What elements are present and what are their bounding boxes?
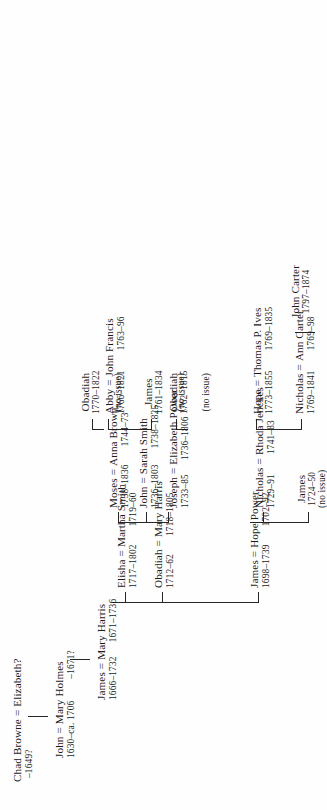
person-name: James: [248, 560, 260, 588]
node-john-carter-1797[interactable]: John Carter 1797–1874: [290, 265, 312, 318]
marriage-symbol: =: [108, 466, 120, 478]
person-dates: 1766–1821: [117, 370, 127, 414]
person-dates: 1630–ca. 1706: [67, 701, 77, 758]
rotated-chart-wrapper: Chad Browne=Elizabeth? –1649? John=Mary …: [0, 0, 327, 810]
person-name: Obadiah: [152, 549, 164, 588]
marriage-symbol: =: [96, 660, 108, 672]
tick-john2: [146, 512, 147, 523]
person-dates: 1733–85: [181, 474, 191, 508]
no-issue-note: (no issue): [318, 470, 327, 508]
person-dates: 1773–1855: [265, 370, 275, 414]
person-dates: 1762–1815: [180, 370, 190, 414]
person-name: Chad Browne: [11, 719, 23, 782]
spouse-name: Thomas P. Ives: [251, 308, 263, 377]
person-dates: 1698–1739: [262, 544, 272, 588]
no-issue-note: (no issue): [202, 370, 212, 414]
tick-james2: [258, 592, 259, 603]
tick-nicholas2: [301, 419, 302, 430]
person-name: Hope: [251, 389, 263, 414]
spouse-dates: 1763–96: [117, 316, 127, 350]
tick-obadiah3: [92, 419, 93, 430]
node-chad-browne[interactable]: Chad Browne=Elizabeth? –1649?: [8, 659, 35, 782]
person-name: John: [137, 486, 149, 508]
spouse-dates: 1671–1736: [109, 599, 119, 643]
person-dates: 1761–1834: [155, 370, 165, 414]
person-dates: –1649?: [25, 659, 35, 782]
node-abby-1766[interactable]: Abby=John Francis 1766–1821 1763–96: [100, 316, 127, 414]
person-dates: 1797–1874: [302, 265, 312, 318]
person-name: Obadiah: [168, 370, 180, 414]
person-name: John Carter: [290, 265, 302, 318]
spouse-dates: 1769–98: [307, 316, 317, 350]
person-name: Nicholas: [293, 373, 305, 414]
person-name: James: [95, 672, 107, 700]
marriage-symbol: =: [254, 455, 266, 467]
person-name: James: [296, 470, 308, 508]
connector-moses-drop: [92, 429, 104, 430]
node-john-1630[interactable]: John=Mary Holmes 1630–ca. 1706 –1671?: [50, 650, 77, 758]
spouse-name: Anna Brown: [107, 407, 119, 465]
person-dates: 1712–62: [166, 554, 176, 588]
spouse-name: Elizabeth?: [11, 659, 23, 707]
person-name: James: [143, 370, 155, 414]
spouse-name: Mary Harris: [95, 604, 107, 660]
person-name: Moses: [107, 478, 119, 508]
marriage-symbol: =: [249, 548, 261, 560]
spouse-dates: –1671?: [67, 650, 77, 679]
spouse-name: Sarah Smith: [137, 418, 149, 474]
person-name: Joseph: [167, 477, 179, 508]
node-nicholas-1769[interactable]: Nicholas=Ann Carter 1769–1841 1769–98: [290, 310, 317, 414]
marriage-symbol: =: [12, 707, 24, 719]
spouse-dates: 1741–83: [267, 420, 277, 454]
marriage-symbol: =: [104, 376, 116, 388]
person-name: Nicholas: [253, 467, 265, 508]
person-dates: 1738–1836: [121, 464, 131, 508]
spouse-name: John Francis: [103, 318, 115, 376]
spouse-name: Mary Holmes: [53, 661, 65, 724]
spouse-dates: 1769–1835: [265, 307, 275, 351]
marriage-symbol: =: [116, 547, 128, 559]
person-dates: 1729–91: [267, 474, 277, 508]
node-obadiah-1762[interactable]: Obadiah 1762–1815 (no issue): [168, 370, 211, 414]
spouse-dates: 1744–73: [121, 412, 131, 446]
sibling-bus-gen4-vert: [125, 602, 258, 603]
node-john-1736[interactable]: John=Sarah Smith 1736–1803 1738–1825: [134, 405, 161, 508]
person-dates: 1717–1802: [129, 544, 139, 588]
person-name: Abby: [103, 389, 115, 414]
person-name: John: [53, 736, 65, 758]
person-dates: 1736–1803: [151, 464, 161, 508]
node-moses-1738[interactable]: Moses=Anna Brown 1738–1836 1744–73: [104, 407, 131, 508]
tick-obadiah1: [162, 592, 163, 603]
node-hope-1773[interactable]: Hope=Thomas P. Ives 1773–1855 1769–1835: [248, 307, 275, 414]
marriage-symbol: =: [252, 377, 264, 389]
node-james-1724[interactable]: James 1724–50 (no issue): [296, 470, 327, 508]
person-dates: 1769–1841: [307, 370, 317, 414]
person-name: Obadiah: [80, 370, 92, 414]
marriage-symbol: =: [153, 537, 165, 549]
marriage-symbol: =: [294, 361, 306, 373]
person-dates: 1666–1732: [109, 656, 119, 700]
tick-elisha: [125, 592, 126, 603]
marriage-symbol: =: [54, 724, 66, 736]
spouse-dates: 1736–1806: [181, 416, 191, 460]
marriage-symbol: =: [138, 474, 150, 486]
genealogy-chart: Chad Browne=Elizabeth? –1649? John=Mary …: [0, 0, 327, 810]
node-james-1666[interactable]: James=Mary Harris 1666–1732 1671–1736: [92, 599, 119, 700]
tick-james3: [308, 512, 309, 523]
person-name: Elisha: [115, 559, 127, 588]
marriage-symbol: =: [168, 465, 180, 477]
